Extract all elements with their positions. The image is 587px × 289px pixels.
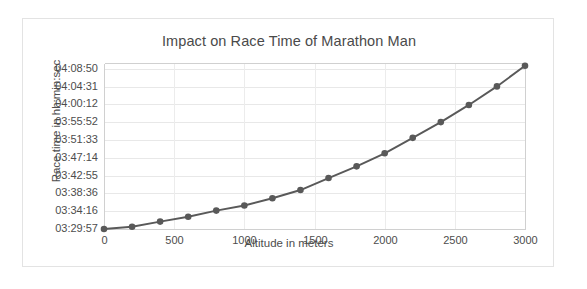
y-tick-labels: 03:29:5703:34:1603:38:3603:42:5503:47:14… <box>55 62 98 234</box>
plot-area: 03:29:5703:34:1603:38:3603:42:5503:47:14… <box>23 19 555 268</box>
data-point-marker: 2000 m — 03:48:20 <box>381 150 388 157</box>
chart-container: Impact on Race Time of Marathon Man Race… <box>22 18 554 267</box>
data-point-marker: 0 m — 03:29:57 <box>101 226 108 233</box>
x-tick-label: 1500 <box>303 234 327 246</box>
y-tick-label: 03:51:33 <box>55 133 98 145</box>
x-tick-label: 2500 <box>443 234 467 246</box>
x-tick-label: 1000 <box>232 234 256 246</box>
y-tick-label: 04:08:50 <box>55 62 98 74</box>
x-tick-label: 2000 <box>373 234 397 246</box>
x-tick-label: 3000 <box>513 234 537 246</box>
x-tick-label: 0 <box>101 234 107 246</box>
x-tick-labels: 050010001500200025003000 <box>101 234 537 246</box>
data-point-marker: 200 m — 03:30:30 <box>129 223 136 230</box>
data-point-marker: 2200 m — 03:52:05 <box>409 135 416 142</box>
data-point-marker: 2800 m — 04:04:35 <box>494 83 501 90</box>
data-point-marker: 400 m — 03:31:45 <box>157 218 164 225</box>
data-point-marker: 800 m — 03:34:25 <box>213 207 220 214</box>
y-tick-label: 03:47:14 <box>55 151 98 163</box>
data-point-marker: 1400 m — 03:39:25 <box>297 187 304 194</box>
data-point-marker: 1000 m — 03:35:40 <box>241 202 248 209</box>
y-tick-label: 04:00:12 <box>55 97 98 109</box>
y-tick-label: 03:34:16 <box>55 204 98 216</box>
data-point-marker: 1800 m — 03:45:10 <box>353 163 360 170</box>
data-point-marker: 2400 m — 03:55:55 <box>438 119 445 126</box>
data-point-marker: 3000 m — 04:09:35 <box>522 63 529 70</box>
x-tick-label: 500 <box>165 234 183 246</box>
data-point-marker: 600 m — 03:32:55 <box>185 213 192 220</box>
y-tick-label: 03:42:55 <box>55 169 98 181</box>
y-tick-label: 03:55:52 <box>55 115 98 127</box>
series-line <box>104 66 525 229</box>
y-tick-label: 04:04:31 <box>55 80 98 92</box>
data-point-marker: 2600 m — 04:00:05 <box>466 102 473 109</box>
horizontal-gridlines <box>104 70 525 212</box>
data-point-marker: 1600 m — 03:42:20 <box>325 175 332 182</box>
data-point-marker: 1200 m — 03:37:25 <box>269 195 276 202</box>
y-tick-label: 03:29:57 <box>55 222 98 234</box>
y-tick-label: 03:38:36 <box>55 186 98 198</box>
